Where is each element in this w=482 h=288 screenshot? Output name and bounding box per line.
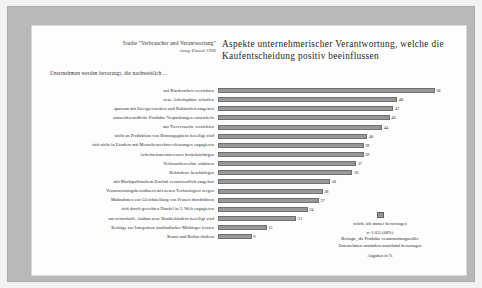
legend-series-label: würde ich immer bevorzugen bbox=[300, 221, 460, 227]
bar-category-label: am wirtschaftl. Aufbau neue Bundesländer… bbox=[46, 216, 218, 222]
chart-row: Arbeitnehmerinteressen berücksichtigen39 bbox=[46, 150, 456, 159]
bar bbox=[218, 152, 364, 157]
bar-value-label: 48 bbox=[399, 97, 403, 102]
bar-category-label: Verantwortungsbewußtsein mit neuen Techn… bbox=[46, 188, 218, 194]
bar-track: 47 bbox=[218, 104, 456, 113]
chart-row: Verbraucherrechte schützen37 bbox=[46, 159, 456, 168]
page-title: Aspekte unternehmerischer Verantwortung,… bbox=[222, 38, 454, 62]
bar-track: 46 bbox=[218, 113, 456, 122]
bar bbox=[218, 106, 393, 111]
legend-description-line2: Unternehmen zumindest manchmal bevorzuge… bbox=[300, 243, 460, 249]
bar-value-label: 40 bbox=[369, 134, 373, 139]
bar bbox=[218, 125, 382, 130]
bar bbox=[218, 134, 367, 139]
bar bbox=[218, 97, 397, 102]
bar bbox=[218, 207, 308, 212]
chart-row: sparsam mit Energievorräten und Rohstoff… bbox=[46, 104, 456, 113]
bar-value-label: 44 bbox=[384, 125, 388, 130]
bar-track: 39 bbox=[218, 141, 456, 150]
bar-value-label: 36 bbox=[354, 170, 358, 175]
bar-category-label: nicht an Produktion von Rüstungsgütern b… bbox=[46, 133, 218, 139]
bar-track: 58 bbox=[218, 86, 456, 95]
chart-row: mit Marktpolitischem Einfluß verantwortl… bbox=[46, 177, 456, 186]
chart-row: Verantwortungsbewußtsein mit neuen Techn… bbox=[46, 187, 456, 196]
bar-track: 27 bbox=[218, 196, 456, 205]
bar-value-label: 9 bbox=[253, 234, 255, 239]
bar bbox=[218, 198, 319, 203]
bar-category-label: sich durch gerechten Handel in 3. Welt e… bbox=[46, 206, 218, 212]
bar-category-label: Beiträge zur Integration ausländischer M… bbox=[46, 225, 218, 231]
bar bbox=[218, 88, 435, 93]
bar-track: 44 bbox=[218, 123, 456, 132]
bar bbox=[218, 216, 296, 221]
bar-track: 36 bbox=[218, 168, 456, 177]
slide-background: Studie "Verbraucher und Verantwortung" i… bbox=[0, 0, 482, 288]
bar bbox=[218, 179, 330, 184]
bar-value-label: 39 bbox=[365, 143, 369, 148]
bar-track: 48 bbox=[218, 95, 456, 104]
study-title: Studie "Verbraucher und Verantwortung" bbox=[50, 40, 216, 47]
bar-value-label: 37 bbox=[358, 161, 362, 166]
bar-track: 30 bbox=[218, 177, 456, 186]
chart-row: umweltfreundliche Produkte/Verpackungen … bbox=[46, 113, 456, 122]
bar-value-label: 27 bbox=[320, 198, 324, 203]
chart-row: nicht an Produktion von Rüstungsgütern b… bbox=[46, 132, 456, 141]
bar-category-label: Kunst und Kultur fördern bbox=[46, 234, 218, 240]
bar-category-label: neue Arbeitsplätze schaffen bbox=[46, 97, 218, 103]
bar bbox=[218, 189, 323, 194]
bar bbox=[218, 161, 356, 166]
legend-unit-note: Angaben in % bbox=[300, 253, 460, 259]
bar-value-label: 13 bbox=[268, 225, 272, 230]
bar-category-label: Behinderte beschäftigen bbox=[46, 170, 218, 176]
study-credit: Studie "Verbraucher und Verantwortung" i… bbox=[50, 40, 216, 54]
chart-row: Maßnahmen zur Gleichstellung von Frauen … bbox=[46, 196, 456, 205]
bar-category-label: auf Kinderarbeit verzichten bbox=[46, 88, 218, 94]
bar bbox=[218, 115, 390, 120]
bar-category-label: umweltfreundliche Produkte/Verpackungen … bbox=[46, 115, 218, 121]
bar-category-label: sparsam mit Energievorräten und Rohstoff… bbox=[46, 106, 218, 112]
slide-canvas: Studie "Verbraucher und Verantwortung" i… bbox=[31, 25, 467, 276]
bar-category-label: Verbraucherrechte schützen bbox=[46, 161, 218, 167]
chart-row: neue Arbeitsplätze schaffen48 bbox=[46, 95, 456, 104]
chart-row: Behinderte beschäftigen36 bbox=[46, 168, 456, 177]
bar bbox=[218, 234, 252, 239]
bar-value-label: 47 bbox=[395, 106, 399, 111]
bar-value-label: 30 bbox=[332, 179, 336, 184]
bar bbox=[218, 170, 352, 175]
bar-category-label: Maßnahmen zur Gleichstellung von Frauen … bbox=[46, 197, 218, 203]
bar-category-label: sich nicht in Ländern mit Menschenrechts… bbox=[46, 142, 218, 148]
chart-row: sich nicht in Ländern mit Menschenrechts… bbox=[46, 141, 456, 150]
bar bbox=[218, 225, 267, 230]
legend-swatch-icon bbox=[377, 212, 384, 218]
chart-subhead: Unternehmen werden bevorzugt, die nachwe… bbox=[50, 70, 216, 76]
bar-value-label: 28 bbox=[324, 189, 328, 194]
bar bbox=[218, 143, 364, 148]
chart-legend: würde ich immer bevorzugen n=1.055 (68%)… bbox=[300, 212, 460, 259]
chart-row: auf Tierversuche verzichten44 bbox=[46, 123, 456, 132]
slide-frame: Studie "Verbraucher und Verantwortung" i… bbox=[7, 6, 475, 282]
bar-category-label: auf Tierversuche verzichten bbox=[46, 124, 218, 130]
bar-category-label: mit Marktpolitischem Einfluß verantwortl… bbox=[46, 179, 218, 185]
bar-value-label: 39 bbox=[365, 152, 369, 157]
bar-value-label: 46 bbox=[391, 115, 395, 120]
bar-value-label: 58 bbox=[436, 88, 440, 93]
bar-category-label: Arbeitnehmerinteressen berücksichtigen bbox=[46, 152, 218, 158]
bar-track: 39 bbox=[218, 150, 456, 159]
study-source: imug-Emnid 1996 bbox=[50, 47, 216, 54]
bar-track: 37 bbox=[218, 159, 456, 168]
bar-track: 40 bbox=[218, 132, 456, 141]
chart-row: auf Kinderarbeit verzichten58 bbox=[46, 86, 456, 95]
bar-track: 28 bbox=[218, 187, 456, 196]
